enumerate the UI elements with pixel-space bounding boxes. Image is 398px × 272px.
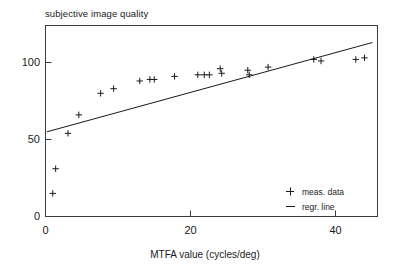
data-point xyxy=(50,190,56,196)
data-point xyxy=(137,78,143,84)
data-point xyxy=(65,130,71,136)
data-point xyxy=(218,70,224,76)
scatter-plot: 0 50 100 0 20 40 MTFA value (cycles/deg)… xyxy=(0,0,398,272)
x-axis-ticks xyxy=(46,211,336,217)
data-point xyxy=(318,58,324,64)
data-point xyxy=(76,112,82,118)
data-point xyxy=(217,65,223,71)
data-point xyxy=(353,56,359,62)
data-point xyxy=(265,64,271,70)
x-axis-title: MTFA value (cycles/deg) xyxy=(150,249,259,260)
chart-page: subjective image quality 0 50 100 0 20 4… xyxy=(0,0,398,272)
y-tick-label-100: 100 xyxy=(22,56,40,68)
data-point xyxy=(97,90,103,96)
data-point xyxy=(245,67,251,73)
y-tick-label-50: 50 xyxy=(28,133,40,145)
data-markers xyxy=(50,55,368,197)
data-point xyxy=(206,72,212,78)
data-point xyxy=(52,166,58,172)
legend-label-meas-data: meas. data xyxy=(302,187,344,197)
x-tick-label-20: 20 xyxy=(184,224,196,236)
data-point xyxy=(195,72,201,78)
regression-line-path xyxy=(47,42,373,131)
data-point xyxy=(361,55,367,61)
data-point xyxy=(171,73,177,79)
x-tick-label-40: 40 xyxy=(329,224,341,236)
y-tick-label-0: 0 xyxy=(34,210,40,222)
data-point xyxy=(311,56,317,62)
legend-label-regr-line: regr. line xyxy=(302,202,335,212)
data-point xyxy=(151,76,157,82)
regression-line xyxy=(47,42,373,131)
legend: meas. data regr. line xyxy=(286,187,344,212)
x-tick-label-0: 0 xyxy=(42,224,48,236)
data-point xyxy=(110,85,116,91)
legend-marker-plus xyxy=(286,188,294,196)
